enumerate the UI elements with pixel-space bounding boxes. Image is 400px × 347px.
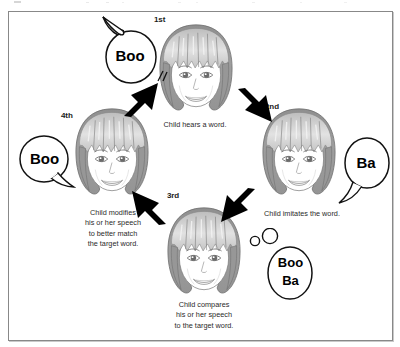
caption-line: to the target word. [144,321,264,331]
thought-bubble-text-line-1: Boo [268,256,313,270]
arrow-up-right-icon [122,78,168,120]
arrow-to-step-1 [122,78,168,124]
thought-bubble-text-line-2: Ba [268,274,313,288]
scan-artifact-speckles [0,0,400,8]
speech-bubble-text-step-2: Ba [337,155,395,171]
arrow-to-step-3 [214,186,258,232]
speech-bubble-step-2: Ba [337,135,395,211]
diagram-page: 1st Child hears a word. Boo 2nd Child im… [0,0,400,347]
speech-bubble-text-step-1: Boo [97,48,163,64]
caption-line: the target word. [53,239,173,249]
arrow-up-left-icon [122,186,168,228]
arrow-to-step-4 [122,186,168,232]
arrow-down-left-icon [214,186,258,228]
step-order-label-3: 3rd [167,192,179,200]
caption-step-3: Child compares his or her speech to the … [144,300,264,331]
caption-line: Child compares [144,300,264,310]
arrow-to-step-2 [235,86,279,132]
thought-bubble-step-3: Boo Ba [249,228,317,306]
arrow-down-right-icon [235,86,279,128]
speech-bubble-step-4: Boo [16,133,76,199]
step-order-label-4: 4th [61,112,73,120]
speech-bubble-icon [337,135,395,207]
caption-line: his or her speech [144,310,264,320]
motion-lines-step-1 [155,68,171,84]
speech-bubble-text-step-4: Boo [16,151,73,167]
